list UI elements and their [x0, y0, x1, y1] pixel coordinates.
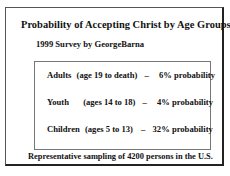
probability-value: 6% probability: [159, 70, 215, 80]
slide-subtitle: 1999 Survey by GeorgeBarna: [36, 39, 144, 49]
probability-value: 32% probability: [153, 124, 213, 134]
separator-dash: –: [140, 70, 154, 80]
separator-dash: –: [135, 124, 150, 134]
slide-footer: Representative sampling of 4200 persons …: [28, 152, 213, 161]
result-row-children: Children (ages 5 to 13) – 32% probabilit…: [47, 124, 213, 134]
group-label: Adults: [47, 70, 71, 80]
group-label: Children: [47, 124, 80, 134]
result-row-adults: Adults (age 19 to death) – 6% probabilit…: [47, 70, 215, 80]
age-range: (age 19 to death): [77, 70, 138, 80]
slide-title: Probability of Accepting Christ by Age G…: [21, 19, 230, 30]
group-label: Youth: [47, 97, 69, 107]
separator-dash: –: [138, 97, 152, 107]
age-range: (ages 14 to 18): [83, 97, 135, 107]
probability-value: 4% probability: [157, 97, 213, 107]
result-row-youth: Youth (ages 14 to 18) – 4% probability: [47, 97, 213, 107]
age-range: (ages 5 to 13): [85, 124, 133, 134]
